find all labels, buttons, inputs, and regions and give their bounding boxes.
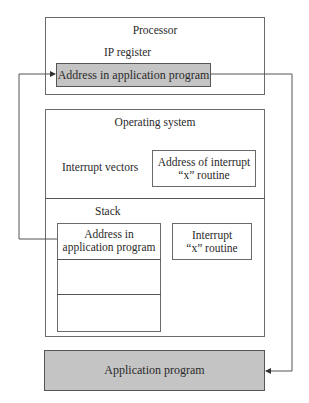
resume-arrow <box>211 74 292 371</box>
connector-arrows <box>0 0 309 403</box>
return-address-arrow <box>19 74 57 239</box>
